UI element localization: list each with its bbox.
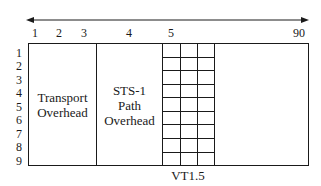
row-label-1: 1 <box>16 47 22 59</box>
column-label-1: 1 <box>32 27 38 39</box>
vt-grid <box>162 43 215 166</box>
column-label-2: 2 <box>56 27 62 39</box>
row-label-6: 6 <box>16 114 22 126</box>
column-label-90: 90 <box>293 27 305 39</box>
path-overhead-label: STS-1 Path Overhead <box>97 83 162 128</box>
column-label-4: 4 <box>126 27 132 39</box>
column-label-3: 3 <box>81 27 87 39</box>
arrow-right-head-icon <box>301 17 309 23</box>
row-label-4: 4 <box>16 87 22 99</box>
row-label-2: 2 <box>16 60 22 72</box>
arrow-left-head-icon <box>26 17 34 23</box>
transport-overhead-label: Transport Overhead <box>29 90 96 120</box>
row-label-9: 9 <box>16 155 22 167</box>
vt15-label: VT1.5 <box>158 168 218 183</box>
column-label-5: 5 <box>168 27 174 39</box>
row-label-7: 7 <box>16 128 22 140</box>
row-label-5: 5 <box>16 101 22 113</box>
row-label-3: 3 <box>16 74 22 86</box>
row-label-8: 8 <box>16 141 22 153</box>
